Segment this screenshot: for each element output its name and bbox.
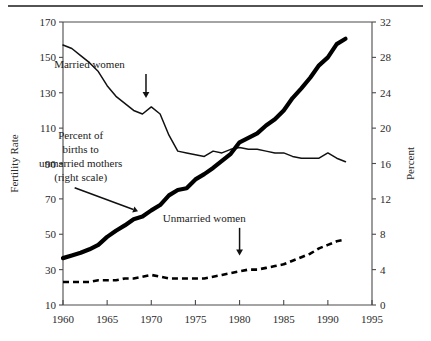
y2-tick-label-28: 28 bbox=[380, 51, 392, 63]
x-tick-label-1965: 1965 bbox=[96, 313, 119, 325]
y2-tick-label-12: 12 bbox=[380, 193, 391, 205]
y-tick-label-10: 10 bbox=[45, 299, 57, 311]
annotation-percent-births-unmarried-arrow-line bbox=[75, 188, 134, 210]
annotation-percent-births-unmarried-line-1: births to bbox=[62, 143, 99, 155]
y2-tick-label-16: 16 bbox=[380, 158, 392, 170]
annotation-married-women-line-0: Married women bbox=[54, 58, 125, 70]
y2-tick-label-8: 8 bbox=[380, 228, 386, 240]
y2-tick-label-0: 0 bbox=[380, 299, 386, 311]
annotation-unmarried-women-arrowhead bbox=[236, 249, 243, 255]
y-tick-label-70: 70 bbox=[45, 193, 57, 205]
y-tick-label-110: 110 bbox=[40, 122, 57, 134]
x-tick-label-1960: 1960 bbox=[52, 313, 75, 325]
annotation-percent-births-unmarried-line-3: (right scale) bbox=[54, 171, 107, 184]
y2-tick-label-4: 4 bbox=[380, 264, 386, 276]
series-percent-of-births-to-unmarried-mothers bbox=[63, 39, 346, 258]
annotation-percent-births-unmarried-line-2: unmarried mothers bbox=[39, 157, 122, 169]
right-axis-title: Percent bbox=[404, 147, 416, 180]
y2-tick-label-24: 24 bbox=[380, 87, 392, 99]
chart-svg: 1030507090110130150170048121620242832196… bbox=[0, 0, 431, 341]
x-tick-label-1990: 1990 bbox=[317, 313, 340, 325]
y-tick-label-50: 50 bbox=[45, 228, 57, 240]
x-tick-label-1975: 1975 bbox=[184, 313, 207, 325]
left-axis-title: Fertility Rate bbox=[8, 134, 20, 192]
annotation-unmarried-women-line-0: Unmarried women bbox=[163, 212, 246, 224]
x-tick-label-1970: 1970 bbox=[140, 313, 163, 325]
y2-tick-label-32: 32 bbox=[380, 16, 391, 28]
annotation-unmarried-women: Unmarried women bbox=[163, 212, 246, 256]
x-tick-label-1995: 1995 bbox=[361, 313, 384, 325]
x-tick-label-1985: 1985 bbox=[273, 313, 296, 325]
y-tick-label-170: 170 bbox=[40, 16, 57, 28]
y2-tick-label-20: 20 bbox=[380, 122, 392, 134]
fertility-chart-figure: 1030507090110130150170048121620242832196… bbox=[0, 0, 431, 341]
y-tick-label-30: 30 bbox=[45, 264, 57, 276]
annotation-percent-births-unmarried-line-0: Percent of bbox=[58, 129, 103, 141]
annotation-married-women-arrowhead bbox=[143, 92, 150, 98]
y-tick-label-130: 130 bbox=[40, 87, 57, 99]
series-unmarried-women bbox=[63, 240, 346, 282]
x-tick-label-1980: 1980 bbox=[229, 313, 252, 325]
